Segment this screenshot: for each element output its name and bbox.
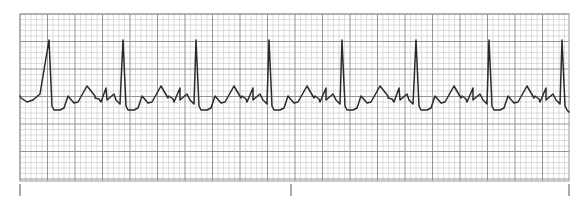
ecg-strip [0,0,585,201]
time-markers [20,184,569,196]
